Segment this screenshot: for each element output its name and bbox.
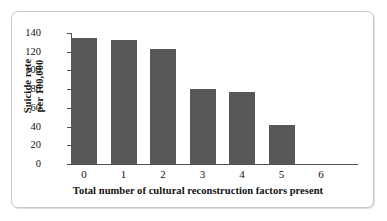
bar xyxy=(111,40,137,164)
y-tick-label: 80 xyxy=(1,84,41,94)
bar-chart: Suicide rate per 100,000 020406080100120… xyxy=(12,12,375,209)
y-tick-label: 100 xyxy=(1,65,41,75)
bar xyxy=(269,125,295,164)
bar xyxy=(229,92,255,164)
bar xyxy=(150,49,176,164)
y-tick-mark xyxy=(67,164,72,165)
y-tick-label: 120 xyxy=(1,47,41,57)
y-tick-label: 0 xyxy=(1,159,41,169)
y-tick-label: 20 xyxy=(1,140,41,150)
x-tick-label: 4 xyxy=(229,168,255,180)
x-axis-line xyxy=(71,164,358,165)
x-tick-label: 5 xyxy=(269,168,295,180)
x-axis-title: Total number of cultural reconstruction … xyxy=(28,185,368,196)
bar xyxy=(190,89,216,164)
y-tick-mark xyxy=(67,33,72,34)
y-tick-label: 60 xyxy=(1,103,41,113)
bar xyxy=(71,38,97,164)
figure-frame: Suicide rate per 100,000 020406080100120… xyxy=(11,11,374,208)
x-tick-label: 3 xyxy=(190,168,216,180)
x-tick-label: 6 xyxy=(308,168,334,180)
y-tick-label: 40 xyxy=(1,122,41,132)
x-tick-label: 0 xyxy=(71,168,97,180)
y-tick-label: 140 xyxy=(1,28,41,38)
x-tick-label: 1 xyxy=(111,168,137,180)
x-tick-label: 2 xyxy=(150,168,176,180)
